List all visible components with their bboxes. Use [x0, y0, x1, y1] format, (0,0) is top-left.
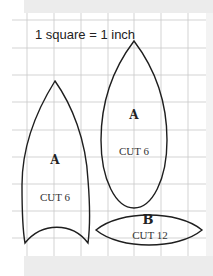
- petal-a-right-cut-label: CUT 6: [119, 145, 149, 157]
- petal-a-left-letter: A: [50, 153, 59, 167]
- scale-label: 1 square = 1 inch: [35, 27, 135, 42]
- petal-a-left-cut-label: CUT 6: [40, 191, 70, 203]
- petal-a-right-letter: A: [129, 108, 138, 122]
- grid-lines: [12, 13, 206, 256]
- lens-b-cut-label: CUT 12: [132, 229, 168, 241]
- lens-b-letter: B: [143, 212, 154, 227]
